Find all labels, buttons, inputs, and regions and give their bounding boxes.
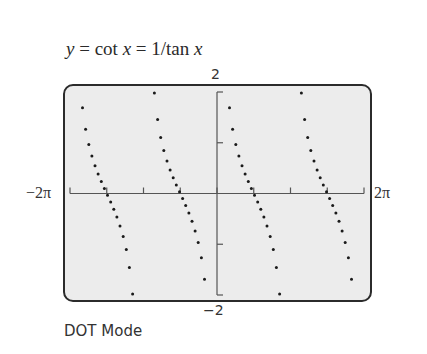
data-dot [178, 190, 181, 193]
data-dot [278, 292, 281, 295]
data-dot [87, 143, 90, 146]
data-dot [350, 278, 353, 281]
data-dot [115, 216, 118, 219]
data-dot [166, 160, 169, 163]
data-dot [128, 266, 131, 269]
data-dot [194, 229, 197, 232]
data-dot [244, 173, 247, 176]
data-dot [344, 241, 347, 244]
data-dot [191, 220, 194, 223]
data-dot [197, 241, 200, 244]
data-dot [300, 92, 303, 95]
data-dot [162, 149, 165, 152]
data-dot [153, 92, 156, 95]
data-dot [247, 180, 250, 183]
data-dot [328, 197, 331, 200]
data-dot [322, 183, 325, 186]
data-dot [309, 149, 312, 152]
data-dot [131, 292, 134, 295]
data-dot [237, 155, 240, 158]
data-dot [319, 176, 322, 179]
data-dot [119, 224, 122, 227]
data-dot [181, 197, 184, 200]
data-dot [253, 194, 256, 197]
data-dot [313, 160, 316, 163]
data-dot [169, 168, 172, 171]
data-dot [334, 212, 337, 215]
data-dot [306, 136, 309, 139]
data-dot [112, 208, 115, 211]
data-dot [241, 164, 244, 167]
data-dot [234, 143, 237, 146]
data-dot [303, 118, 306, 121]
data-dot [347, 256, 350, 259]
data-dot [325, 190, 328, 193]
data-dot [250, 187, 253, 190]
data-dot [172, 176, 175, 179]
data-dot [125, 248, 128, 251]
data-dot [109, 201, 112, 204]
data-dot [175, 183, 178, 186]
data-dot [97, 173, 100, 176]
data-dot [228, 106, 231, 109]
data-dot [156, 118, 159, 121]
data-dot [122, 235, 125, 238]
data-dot [272, 248, 275, 251]
data-dot [200, 256, 203, 259]
data-dot [331, 204, 334, 207]
data-dot [81, 106, 84, 109]
data-dot [231, 128, 234, 131]
data-dot [187, 212, 190, 215]
data-dot [203, 278, 206, 281]
data-dot [106, 194, 109, 197]
data-dot [84, 128, 87, 131]
data-dot [262, 216, 265, 219]
data-dot [269, 235, 272, 238]
data-dot [341, 229, 344, 232]
data-dot [266, 224, 269, 227]
data-dot [275, 266, 278, 269]
data-dot [90, 155, 93, 158]
data-dot [256, 201, 259, 204]
data-dot [159, 136, 162, 139]
data-dot [338, 220, 341, 223]
data-dot [100, 180, 103, 183]
data-dot [316, 169, 319, 172]
data-dot [259, 208, 262, 211]
data-dot [184, 204, 187, 207]
plot-area [0, 0, 427, 354]
data-dot [103, 187, 106, 190]
data-dot [94, 164, 97, 167]
caption: DOT Mode [64, 322, 142, 340]
